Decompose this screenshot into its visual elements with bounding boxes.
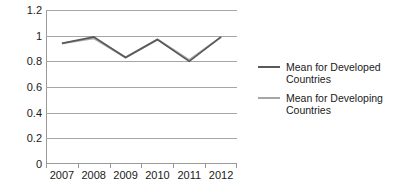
y-tick-label: 1 <box>2 31 42 42</box>
y-tick-label: 0.4 <box>2 108 42 119</box>
y-tick-label: 1.2 <box>2 5 42 16</box>
chart-legend: Mean for Developed Countries Mean for De… <box>258 61 394 123</box>
x-tick-label-2008: 2008 <box>78 168 110 184</box>
legend-line-swatch-icon <box>258 92 280 103</box>
y-tick-label: 0 <box>2 159 42 170</box>
x-tick-label-2010: 2010 <box>141 168 173 184</box>
y-tick-label: 0.8 <box>2 56 42 67</box>
line-developed-countries <box>62 37 221 61</box>
x-tick-label-2011: 2011 <box>173 168 205 184</box>
series-lines <box>46 10 237 164</box>
x-axis-tick-labels: 2007 2008 2009 2010 2011 2012 <box>46 168 237 184</box>
x-tick-label-2009: 2009 <box>110 168 142 184</box>
x-tick-label-2007: 2007 <box>46 168 78 184</box>
legend-label-developed: Mean for Developed Countries <box>286 61 392 85</box>
x-tick-label-2012: 2012 <box>205 168 237 184</box>
y-axis-tick-labels: 1.2 1 0.8 0.6 0.4 0.2 0 <box>0 0 42 189</box>
y-tick-label: 0.2 <box>2 133 42 144</box>
plot-area <box>46 10 237 164</box>
legend-item-developing[interactable]: Mean for Developing Countries <box>258 92 394 116</box>
legend-line-swatch-icon <box>258 61 280 72</box>
legend-item-developed[interactable]: Mean for Developed Countries <box>258 61 394 85</box>
y-tick-label: 0.6 <box>2 82 42 93</box>
line-chart: 1.2 1 0.8 0.6 0.4 0.2 0 2007 2008 <box>0 0 397 189</box>
legend-label-developing: Mean for Developing Countries <box>286 92 392 116</box>
